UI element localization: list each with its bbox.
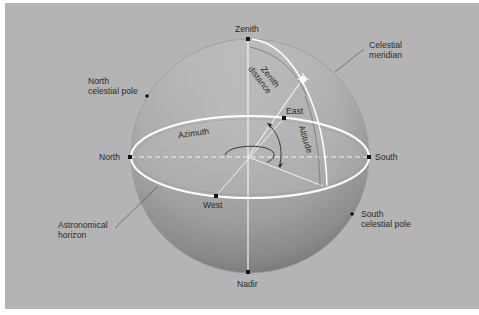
label-astronomical-horizon: Astronomical horizon — [58, 220, 108, 240]
label-celestial-meridian: Celestial meridian — [369, 40, 402, 60]
label-north: North — [99, 152, 120, 162]
east-point — [282, 116, 286, 120]
label-east: East — [286, 106, 303, 116]
label-south-celestial-pole: South celestial pole — [361, 209, 411, 229]
label-nadir: Nadir — [237, 279, 258, 289]
label-north-celestial-pole: North celestial pole — [88, 76, 138, 96]
south-celestial-pole-point — [350, 212, 354, 216]
south-point — [367, 155, 371, 159]
label-zenith: Zenith — [235, 24, 259, 34]
north-celestial-pole-point — [145, 94, 149, 98]
zenith-point — [246, 37, 250, 41]
meridian-leader — [335, 49, 364, 72]
label-south: South — [375, 152, 397, 162]
nadir-point — [246, 270, 250, 274]
celestial-sphere-diagram — [0, 0, 479, 315]
north-point — [128, 155, 132, 159]
west-point — [214, 194, 218, 198]
label-west: West — [203, 200, 222, 210]
